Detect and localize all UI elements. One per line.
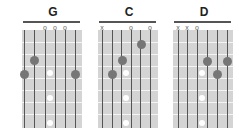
fret-line — [22, 42, 82, 43]
inlay-marker — [199, 70, 205, 76]
inlay-marker — [47, 70, 53, 76]
inlay-marker — [123, 70, 129, 76]
string-line — [197, 30, 198, 128]
string-line — [131, 30, 132, 128]
fret-line — [173, 42, 233, 43]
inlay-marker — [123, 120, 129, 126]
fret-line — [98, 66, 158, 67]
string-line — [24, 30, 25, 128]
inlay-marker — [199, 95, 205, 101]
fret-line — [98, 78, 158, 79]
fret-line — [98, 42, 158, 43]
finger-dot — [20, 70, 29, 79]
string-line — [75, 30, 76, 128]
chord-diagram-g: G o o o — [22, 0, 84, 138]
fret-line — [173, 78, 233, 79]
string-line — [65, 30, 66, 128]
fret-line — [173, 102, 233, 103]
finger-dot — [203, 57, 212, 66]
fret-line — [173, 90, 233, 91]
fret-line — [98, 102, 158, 103]
string-line — [112, 30, 113, 128]
chord-title: D — [173, 5, 235, 19]
finger-dot — [223, 57, 232, 66]
fret-line — [98, 54, 158, 55]
header-rule — [174, 21, 231, 23]
finger-dot — [71, 70, 80, 79]
fretboard — [22, 30, 82, 128]
string-line — [121, 30, 122, 128]
inlay-marker — [47, 95, 53, 101]
finger-dot — [108, 70, 117, 79]
string-line — [207, 30, 208, 128]
chord-title: C — [98, 5, 160, 19]
fret-line — [98, 90, 158, 91]
chord-title: G — [22, 5, 84, 19]
fretboard — [98, 30, 158, 128]
inlay-marker — [123, 95, 129, 101]
string-line — [102, 30, 103, 128]
finger-dot — [30, 56, 39, 65]
finger-dot — [137, 40, 146, 49]
fret-line — [22, 114, 82, 115]
fret-line — [22, 90, 82, 91]
finger-dot — [213, 70, 222, 79]
fret-line — [173, 54, 233, 55]
fret-line — [22, 54, 82, 55]
header-rule — [23, 21, 80, 23]
string-line — [178, 30, 179, 128]
chord-diagram-d: D x x o — [173, 0, 235, 138]
inlay-marker — [47, 120, 53, 126]
fret-line — [173, 66, 233, 67]
string-line — [34, 30, 35, 128]
string-line — [45, 30, 46, 128]
finger-dot — [118, 56, 127, 65]
fret-line — [22, 102, 82, 103]
header-rule — [99, 21, 156, 23]
string-line — [217, 30, 218, 128]
string-line — [55, 30, 56, 128]
fretboard — [173, 30, 233, 128]
string-line — [150, 30, 151, 128]
inlay-marker — [199, 120, 205, 126]
string-line — [227, 30, 228, 128]
fret-line — [98, 114, 158, 115]
chord-diagram-c: C x o o — [98, 0, 160, 138]
string-line — [187, 30, 188, 128]
fret-line — [22, 66, 82, 67]
fret-line — [173, 114, 233, 115]
